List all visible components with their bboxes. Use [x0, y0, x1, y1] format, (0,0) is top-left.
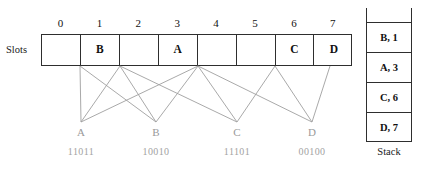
- key-label-D: D: [290, 126, 334, 138]
- slot-cell-0[interactable]: [42, 35, 81, 65]
- hash-link-B-5: [156, 66, 198, 122]
- key-bits-A: 11011: [51, 146, 111, 157]
- stack-entry-3[interactable]: D, 7: [366, 112, 412, 142]
- hash-link-D-9: [198, 66, 312, 122]
- hash-link-A-0: [80, 66, 81, 122]
- key-label-A: A: [59, 126, 103, 138]
- slot-cell-1[interactable]: B: [81, 35, 120, 65]
- hash-link-A-2: [81, 66, 198, 122]
- hash-link-C-7: [198, 66, 237, 122]
- hash-link-C-8: [237, 66, 275, 122]
- hash-link-A-1: [81, 66, 120, 122]
- hash-link-B-4: [120, 66, 156, 122]
- stack-entry-label-1: A, 3: [367, 53, 411, 83]
- hashing-slots-figure: Slots 01234567 BACD A11011B10010C11101D0…: [0, 0, 421, 177]
- slot-index-3: 3: [158, 16, 197, 30]
- slot-cell-3[interactable]: A: [159, 35, 198, 65]
- stack-entry-2[interactable]: C, 6: [366, 82, 412, 112]
- hash-link-D-11: [312, 66, 330, 122]
- slot-value-3: A: [159, 43, 197, 55]
- slots-table: BACD: [41, 34, 352, 66]
- slot-index-row: 01234567: [41, 16, 353, 30]
- stack-entry-label-0: B, 1: [367, 23, 411, 53]
- slot-value-7: D: [314, 43, 353, 55]
- stack-container: B, 1A, 3C, 6D, 7: [366, 8, 412, 142]
- slot-index-5: 5: [236, 16, 275, 30]
- slot-index-4: 4: [197, 16, 236, 30]
- stack-caption: Stack: [366, 146, 412, 157]
- slot-value-1: B: [81, 43, 119, 55]
- slot-index-2: 2: [119, 16, 158, 30]
- clipped-top-text: [3, 0, 233, 6]
- slot-index-7: 7: [313, 16, 352, 30]
- slot-cell-6[interactable]: C: [275, 35, 314, 65]
- slot-index-6: 6: [274, 16, 313, 30]
- slots-label: Slots: [6, 44, 40, 55]
- stack-entry-0[interactable]: B, 1: [366, 22, 412, 52]
- key-label-C: C: [215, 126, 259, 138]
- key-label-B: B: [134, 126, 178, 138]
- slot-cell-7[interactable]: D: [314, 35, 353, 65]
- slot-cell-4[interactable]: [198, 35, 237, 65]
- stack-entry-1[interactable]: A, 3: [366, 52, 412, 82]
- key-bits-B: 10010: [126, 146, 186, 157]
- slot-cell-5[interactable]: [237, 35, 276, 65]
- hash-link-D-10: [275, 66, 312, 122]
- slot-value-6: C: [275, 43, 313, 55]
- slot-cell-2[interactable]: [120, 35, 159, 65]
- stack-open-top: [366, 8, 412, 22]
- slot-index-1: 1: [80, 16, 119, 30]
- hash-link-C-6: [120, 66, 237, 122]
- stack-entry-label-2: C, 6: [367, 83, 411, 113]
- hash-link-B-3: [80, 66, 156, 122]
- stack-entry-label-3: D, 7: [367, 113, 411, 143]
- key-bits-D: 00100: [282, 146, 342, 157]
- slot-index-0: 0: [41, 16, 80, 30]
- key-bits-C: 11101: [207, 146, 267, 157]
